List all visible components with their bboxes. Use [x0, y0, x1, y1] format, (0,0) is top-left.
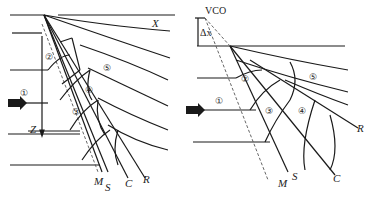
right-label-s: S — [292, 170, 298, 182]
x-axis-label: X — [151, 17, 160, 29]
left-thrust-arrow-icon — [8, 96, 27, 110]
right-zone-4: ④ — [298, 106, 306, 116]
diagram-canvas: X Z ① ② ③ ④ ⑤ M S C R VCO Δx ① ② ③ ④ ⑤ M… — [0, 0, 366, 197]
right-zone-1: ① — [215, 96, 223, 106]
delta-x-label: Δx — [200, 27, 211, 38]
z-arrow-icon — [40, 130, 44, 136]
left-zone-5: ⑤ — [103, 63, 111, 73]
right-label-c: C — [333, 172, 341, 184]
left-zone-2: ② — [45, 52, 53, 62]
left-zone-4: ④ — [85, 85, 93, 95]
right-label-m: M — [277, 177, 288, 189]
right-zone-3: ③ — [265, 106, 273, 116]
left-label-r: R — [142, 173, 150, 185]
right-zone-5: ⑤ — [309, 72, 317, 82]
left-label-m: M — [93, 175, 104, 187]
vco-label: VCO — [205, 5, 226, 16]
left-panel — [8, 15, 175, 178]
right-thrust-arrow-icon — [186, 103, 205, 117]
right-zone-2: ② — [241, 74, 249, 84]
left-zone-1: ① — [20, 88, 28, 98]
left-zone-3: ③ — [72, 107, 80, 117]
left-label-s: S — [105, 181, 111, 193]
left-label-c: C — [125, 177, 133, 189]
z-axis-label: Z — [30, 123, 37, 135]
right-label-r: R — [356, 122, 364, 134]
